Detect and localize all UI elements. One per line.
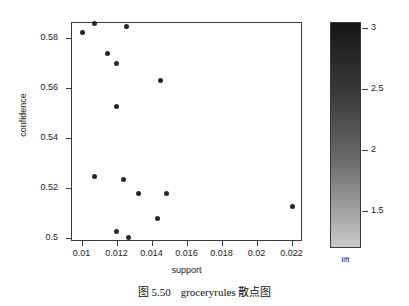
colorbar-tick <box>362 211 368 212</box>
plot-panel-frame <box>71 22 302 241</box>
y-axis-tick-label: 0.54 <box>24 132 58 143</box>
x-axis-tick <box>222 241 223 246</box>
x-axis-tick <box>117 241 118 246</box>
y-axis-tick-label: 0.58 <box>24 32 58 43</box>
y-axis-tick <box>66 38 71 39</box>
figure-number: 图 5.50 <box>138 286 171 298</box>
colorbar-title: lift <box>330 255 361 264</box>
y-axis-tick-label: 0.52 <box>24 182 58 193</box>
x-axis-tick-label: 0.022 <box>272 248 312 259</box>
figure-caption-text: groceryrules 散点图 <box>181 286 272 298</box>
x-axis-tick <box>187 241 188 246</box>
x-axis-tick-label: 0.01 <box>62 248 102 259</box>
x-axis-tick-label: 0.02 <box>237 248 277 259</box>
x-axis-title: support <box>71 265 302 275</box>
figure-caption: 图 5.50groceryrules 散点图 <box>0 283 409 299</box>
colorbar-tick <box>362 150 368 151</box>
colorbar-tick-label: 2 <box>371 144 376 155</box>
scatter-figure: confidence support lift 图 5.50groceryrul… <box>0 0 409 306</box>
colorbar-tick <box>362 28 368 29</box>
x-axis-tick <box>257 241 258 246</box>
colorbar-tick <box>362 89 368 90</box>
y-axis-tick <box>66 188 71 189</box>
x-axis-tick-label: 0.012 <box>97 248 137 259</box>
y-axis-tick <box>66 138 71 139</box>
y-axis-tick <box>66 88 71 89</box>
x-axis-tick-label: 0.018 <box>202 248 242 259</box>
y-axis-tick <box>66 238 71 239</box>
y-axis-tick-label: 0.5 <box>24 232 58 243</box>
x-axis-tick <box>292 241 293 246</box>
colorbar-tick-label: 2.5 <box>371 83 384 94</box>
x-axis-tick-label: 0.016 <box>167 248 207 259</box>
colorbar-tick-label: 1.5 <box>371 205 384 216</box>
x-axis-tick-label: 0.014 <box>132 248 172 259</box>
x-axis-tick <box>152 241 153 246</box>
y-axis-tick-label: 0.56 <box>24 82 58 93</box>
lift-colorbar-gradient <box>330 22 361 248</box>
colorbar-tick-label: 3 <box>371 22 376 33</box>
x-axis-tick <box>82 241 83 246</box>
